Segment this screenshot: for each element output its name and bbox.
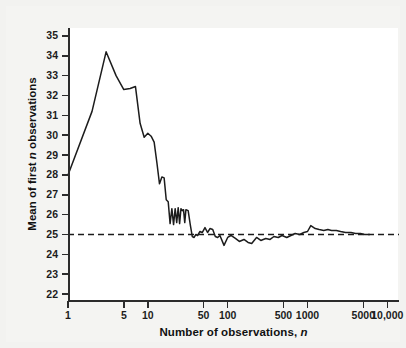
y-axis-tick-label: 27 [32, 189, 58, 200]
y-axis-tick [62, 234, 69, 236]
x-axis-tick [283, 301, 285, 308]
figure-canvas: Mean of first n observations Number of o… [6, 6, 400, 342]
y-axis-tick-label: 23 [32, 269, 58, 280]
y-axis-tick [62, 293, 69, 295]
y-axis-tick [62, 55, 69, 57]
y-axis-tick-label: 35 [32, 30, 58, 41]
y-axis-tick [62, 75, 69, 77]
x-axis-tick-label: 500 [275, 310, 293, 321]
y-axis-tick [62, 134, 69, 136]
y-axis-tick [62, 115, 69, 117]
x-axis-tick [307, 301, 309, 308]
y-axis-tick [62, 154, 69, 156]
x-axis-tick-label: 10,000 [371, 310, 403, 321]
x-axis-tick [67, 301, 69, 308]
y-axis-tick [62, 214, 69, 216]
y-axis-tick [62, 95, 69, 97]
x-axis-line [68, 300, 399, 302]
y-axis-tick-label: 26 [32, 209, 58, 220]
y-axis-tick-label: 28 [32, 169, 58, 180]
y-axis-tick-label: 22 [32, 289, 58, 300]
y-axis-tick [62, 174, 69, 176]
y-axis-tick-label: 29 [32, 150, 58, 161]
x-axis-tick-label: 100 [219, 310, 237, 321]
y-axis-tick-label: 31 [32, 110, 58, 121]
x-axis-tick-label: 50 [198, 310, 210, 321]
x-axis-tick [363, 301, 365, 308]
y-axis-tick-label: 33 [32, 70, 58, 81]
x-axis-tick [387, 301, 389, 308]
chart-plot [68, 28, 399, 302]
y-axis-tick [62, 194, 69, 196]
x-axis-tick [123, 301, 125, 308]
x-axis-tick-label: 1000 [296, 310, 319, 321]
x-axis-tick-label: 5 [121, 310, 127, 321]
x-axis-tick [147, 301, 149, 308]
y-axis-tick-label: 34 [32, 50, 58, 61]
y-axis-tick-label: 30 [32, 130, 58, 141]
y-axis-tick-label: 24 [32, 249, 58, 260]
y-axis-line [68, 28, 70, 302]
x-axis-tick-label: 10 [142, 310, 154, 321]
figure-container: Mean of first n observations Number of o… [0, 0, 406, 348]
y-axis-tick [62, 35, 69, 37]
running-mean-line [68, 52, 370, 246]
x-axis-title: Number of observations, n [68, 326, 399, 338]
y-axis-tick-label: 32 [32, 90, 58, 101]
x-axis-tick [227, 301, 229, 308]
y-axis-tick-label: 25 [32, 229, 58, 240]
x-axis-tick-label: 1 [65, 310, 71, 321]
y-axis-tick [62, 273, 69, 275]
y-axis-tick [62, 254, 69, 256]
x-axis-tick [203, 301, 205, 308]
